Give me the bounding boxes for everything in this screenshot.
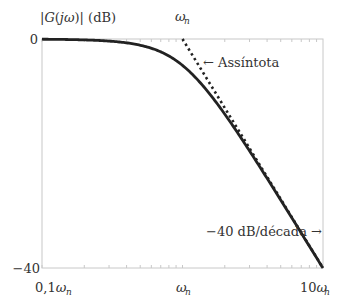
y-tick-label-0: 0 (30, 32, 38, 47)
svg-text:0,1ω: 0,1ω (35, 280, 67, 295)
svg-text:n: n (66, 287, 72, 297)
y-axis-label: |G(jω)| (dB) (40, 10, 116, 25)
slope-annotation: −40 dB/década → (206, 224, 322, 239)
x-tick-label-10: 10ω n (300, 280, 330, 297)
bode-magnitude-chart: |G(jω)| (dB) 0 −40 ω n 0,1ω n ω n 10ω n … (0, 0, 342, 308)
svg-text:n: n (184, 16, 190, 26)
x-tick-label-0-1: 0,1ω n (35, 280, 72, 297)
y-tick-label-minus40: −40 (13, 261, 40, 276)
x-tick-label-1: ω n (176, 280, 191, 297)
top-label-omega-n: ω n (175, 9, 190, 26)
asymptote-annotation: ← Assíntota (203, 55, 280, 70)
svg-text:n: n (185, 287, 191, 297)
svg-text:n: n (324, 287, 330, 297)
